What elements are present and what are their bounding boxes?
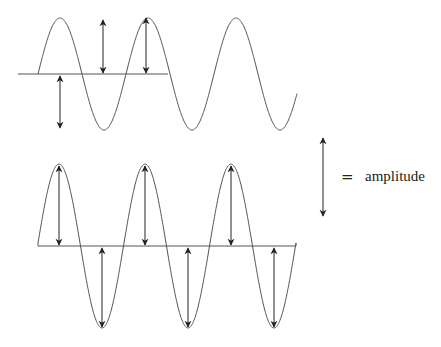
legend-amplitude-label: amplitude: [365, 168, 425, 185]
legend-equals: =: [341, 168, 354, 186]
bottom-wave: [38, 164, 296, 328]
top-wave: [18, 18, 297, 130]
